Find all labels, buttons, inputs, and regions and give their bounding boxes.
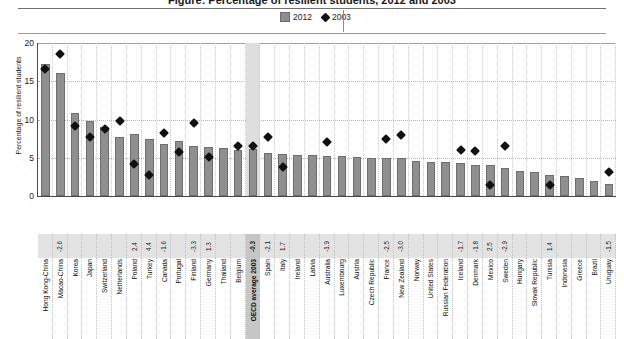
bar-column: [246, 43, 261, 196]
category-label: Hong Kong-China: [41, 259, 48, 311]
diamond-marker-2003: [456, 145, 466, 155]
difference-cell: -3.3: [186, 234, 201, 258]
y-tick-label-20: 20: [12, 38, 34, 48]
bar-2012: [100, 127, 109, 196]
bar-2012: [427, 162, 436, 196]
diamond-marker-2003: [500, 141, 510, 151]
difference-value: -2.6: [56, 241, 63, 252]
difference-value: -1.5: [605, 241, 612, 252]
difference-value: 2.5: [486, 242, 493, 251]
category-cell: Finland: [186, 257, 201, 339]
bar-2012: [456, 163, 465, 196]
difference-cell: [171, 234, 186, 258]
y-axis-ticks: 05101520: [10, 36, 34, 196]
bar-column: [53, 43, 68, 196]
column-separator: [615, 43, 616, 196]
bar-column: [513, 43, 528, 196]
difference-value: 1.7: [279, 242, 286, 251]
diamond-marker-2003: [382, 134, 392, 144]
bar-column: [424, 43, 439, 196]
category-cell: Hong Kong-China: [38, 257, 53, 339]
difference-cell: [38, 234, 53, 258]
category-cell: United States: [424, 257, 439, 339]
y-tick-label-0: 0: [12, 191, 34, 201]
category-label: Italy: [279, 259, 286, 271]
category-cell: New Zealand: [394, 257, 409, 339]
difference-cell: -2.6: [53, 234, 68, 258]
category-cell: Belgium: [231, 257, 246, 339]
bar-2012: [353, 157, 362, 196]
bar-2012: [471, 165, 480, 196]
bar-column: [82, 43, 97, 196]
difference-cell: [231, 234, 246, 258]
category-label: Uruguay: [605, 259, 612, 284]
bar-2012: [382, 158, 391, 196]
category-cell: Spain: [260, 257, 275, 339]
category-cell: Poland: [127, 257, 142, 339]
category-label: Thailand: [219, 259, 226, 284]
bar-2012: [160, 144, 169, 196]
category-cell: Netherlands: [112, 257, 127, 339]
category-cell: Iceland: [453, 257, 468, 339]
diamond-marker-2003: [604, 167, 614, 177]
category-label: Turkey: [145, 259, 152, 279]
category-cell: Korea: [68, 257, 83, 339]
category-cell: Thailand: [216, 257, 231, 339]
bar-2012: [189, 146, 198, 196]
category-cell: Luxembourg: [335, 257, 350, 339]
bar-2012: [145, 139, 154, 196]
bar-column: [68, 43, 83, 196]
bar-2012: [115, 137, 124, 196]
difference-cell: -1.9: [320, 234, 335, 258]
difference-cell: -3.0: [394, 234, 409, 258]
category-label: Ireland: [293, 259, 300, 279]
diamond-marker-2003: [263, 132, 273, 142]
bar-2012: [278, 154, 287, 196]
difference-cell: [305, 234, 320, 258]
category-cell: Germany: [201, 257, 216, 339]
bar-2012: [293, 155, 302, 196]
category-label: Denmark: [471, 259, 478, 286]
category-label: Czech Republic: [368, 259, 375, 305]
category-label: Mexico: [486, 259, 493, 280]
category-label: Indonesia: [560, 259, 567, 288]
category-cell: Sweden: [498, 257, 513, 339]
category-cell: Tunisia: [542, 257, 557, 339]
difference-cell: [112, 234, 127, 258]
x-axis-line: [37, 196, 616, 197]
bar-2012: [219, 148, 228, 196]
difference-value: -1.9: [323, 241, 330, 252]
category-cell: Italy: [275, 257, 290, 339]
difference-value: 4.4: [145, 242, 152, 251]
category-cell: Czech Republic: [364, 257, 379, 339]
category-label: Sweden: [501, 259, 508, 283]
category-cell: Brazil: [587, 257, 602, 339]
difference-cell: 1.4: [542, 234, 557, 258]
bar-column: [527, 43, 542, 196]
bar-column: [379, 43, 394, 196]
bar-column: [498, 43, 513, 196]
difference-cell: [557, 234, 572, 258]
bar-column: [260, 43, 275, 196]
category-cell: Mexico: [483, 257, 498, 339]
difference-cell: [216, 234, 231, 258]
category-label: Netherlands: [116, 259, 123, 295]
chart-legend: 2012 2003: [280, 12, 351, 22]
difference-value: 1.3: [205, 242, 212, 251]
category-label: Greece: [575, 259, 582, 281]
category-cell: Denmark: [468, 257, 483, 339]
difference-cell: [349, 234, 364, 258]
category-cell: Austria: [349, 257, 364, 339]
legend-label-2003: 2003: [332, 12, 351, 22]
category-label: Latvia: [308, 259, 315, 277]
diamond-marker-2003: [470, 146, 480, 156]
difference-cell: [97, 234, 112, 258]
bar-column: [483, 43, 498, 196]
bar-column: [335, 43, 350, 196]
bar-2012: [441, 162, 450, 196]
difference-cell: [68, 234, 83, 258]
category-cell: Macao-China: [53, 257, 68, 339]
difference-cell: [424, 234, 439, 258]
diamond-marker-2003: [115, 116, 125, 126]
